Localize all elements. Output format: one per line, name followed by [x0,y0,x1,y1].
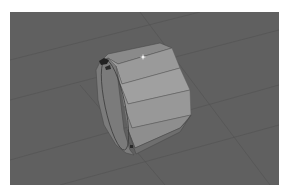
viewport-canvas[interactable] [10,12,279,185]
3d-viewport[interactable] [10,12,279,185]
